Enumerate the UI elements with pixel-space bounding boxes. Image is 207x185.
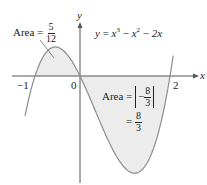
shaded-region-left [35, 47, 80, 76]
area-right-prefix: Area = [102, 90, 132, 102]
fn-op1: − [123, 27, 129, 39]
fn-e1: 3 [117, 26, 121, 34]
area-left-prefix: Area = [13, 26, 43, 38]
area-right-eq: = [126, 115, 132, 127]
area-right-label: Area = − 8 3 [102, 86, 154, 108]
x-tick-0: 0 [71, 80, 77, 91]
area-left-fraction: 5 12 [46, 22, 56, 44]
area-right-num: 8 [144, 86, 151, 98]
area-left-num: 5 [48, 22, 55, 34]
y-axis-label: y [77, 10, 82, 21]
fn-e2: 2 [137, 26, 141, 34]
fn-op2: − [143, 27, 149, 39]
x-axis-arrow-icon [193, 74, 199, 79]
area-left-den: 12 [46, 34, 56, 45]
area-right-num2: 8 [135, 111, 142, 123]
area-right-result: = 8 3 [126, 111, 142, 133]
x-tick-neg1: −1 [17, 80, 29, 91]
x-tick-2: 2 [173, 80, 179, 91]
y-axis-arrow-icon [78, 22, 83, 28]
function-label: y = x3 − x2 − 2x [95, 27, 162, 39]
area-right-abs: − 8 3 [135, 86, 154, 108]
area-right-fraction2: 8 3 [135, 111, 142, 133]
fn-t3: 2x [152, 27, 162, 39]
area-right-den2: 3 [136, 123, 141, 134]
fn-lhs: y [95, 27, 100, 39]
area-right-fraction: 8 3 [144, 86, 151, 108]
area-left-label: Area = 5 12 [13, 22, 56, 44]
x-axis-label: x [200, 70, 205, 81]
area-right-den: 3 [145, 98, 150, 109]
fn-eq: = [103, 27, 109, 39]
